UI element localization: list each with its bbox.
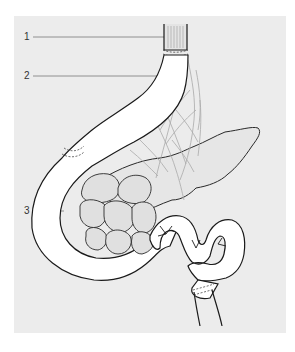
digestive-tract-illustration — [0, 0, 295, 352]
pancreatic-head-lobules — [80, 174, 156, 254]
esophagus — [163, 24, 188, 56]
label-3-duodenum: 3 — [24, 206, 30, 216]
label-1-esophagus: 1 — [24, 32, 30, 42]
label-2-stomach: 2 — [24, 71, 30, 81]
jejunum — [150, 216, 245, 299]
